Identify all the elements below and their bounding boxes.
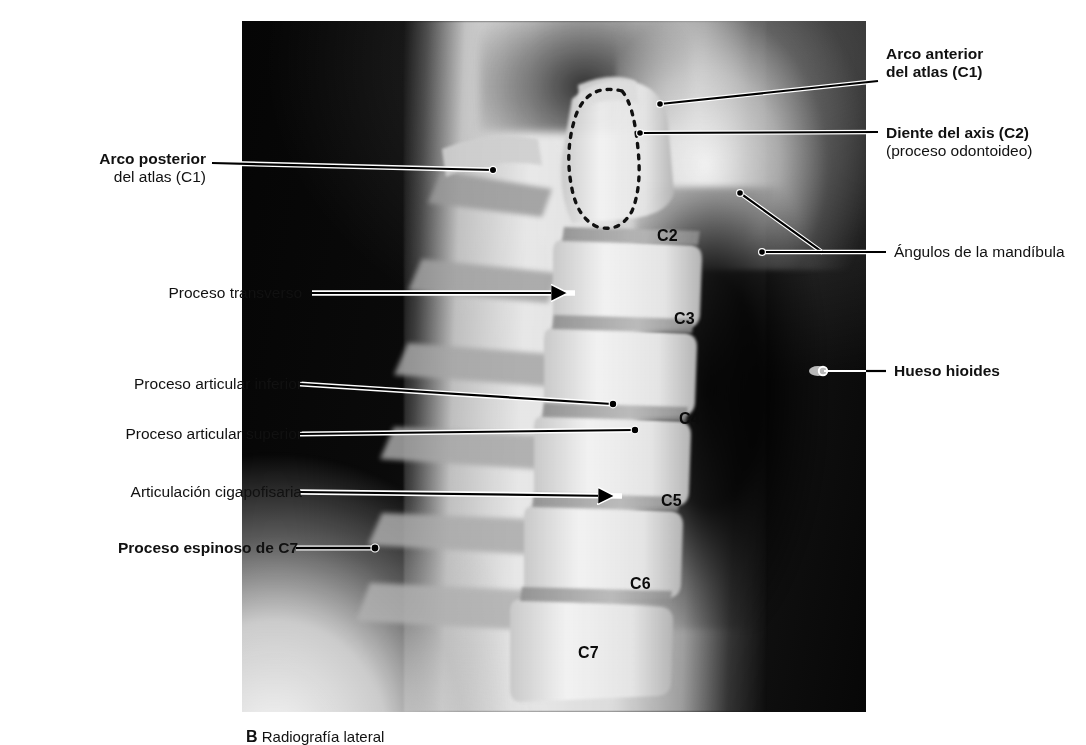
label-proceso-transverso-text: Proceso transverso	[168, 284, 302, 301]
cervical-spine-radiograph	[242, 21, 866, 712]
film-grain	[242, 21, 866, 712]
label-hueso-hioides: Hueso hioides	[894, 362, 1000, 380]
label-proceso-espinoso-c7: Proceso espinoso de C7	[20, 539, 298, 557]
label-proceso-articular-superior-text: Proceso articular superior	[125, 425, 302, 442]
figure-caption: B Radiografía lateral	[246, 727, 384, 745]
label-articulacion-cigapofisaria-text: Articulación cigapofisaria	[131, 483, 302, 500]
label-angulos-mandibula: Ángulos de la mandíbula	[894, 243, 1065, 261]
label-arco-anterior-atlas-line2: del atlas (C1)	[886, 63, 983, 81]
vertebra-label-c7: C7	[578, 644, 599, 662]
label-proceso-espinoso-c7-text: Proceso espinoso de C7	[118, 539, 298, 556]
label-arco-anterior-atlas: Arco anterior del atlas (C1)	[886, 45, 983, 81]
caption-text: Radiografía lateral	[262, 728, 385, 745]
vertebra-label-c5: C5	[661, 492, 682, 510]
label-arco-anterior-atlas-line1: Arco anterior	[886, 45, 983, 62]
label-articulacion-cigapofisaria: Articulación cigapofisaria	[14, 483, 302, 501]
label-arco-posterior-atlas: Arco posterior del atlas (C1)	[99, 150, 206, 186]
vertebra-label-c4: C4	[679, 410, 700, 428]
label-diente-del-axis: Diente del axis (C2) (proceso odontoideo…	[886, 124, 1033, 160]
caption-letter: B	[246, 728, 258, 745]
label-angulos-mandibula-text: Ángulos de la mandíbula	[894, 243, 1065, 260]
label-diente-del-axis-line2: (proceso odontoideo)	[886, 142, 1033, 160]
label-arco-posterior-atlas-line2: del atlas (C1)	[99, 168, 206, 186]
label-proceso-transverso: Proceso transverso	[30, 284, 302, 302]
vertebra-label-c3: C3	[674, 310, 695, 328]
label-proceso-articular-inferior: Proceso articular inferior	[18, 375, 302, 393]
label-diente-del-axis-line1: Diente del axis (C2)	[886, 124, 1029, 141]
label-proceso-articular-superior: Proceso articular superior	[8, 425, 302, 443]
vertebra-label-c6: C6	[630, 575, 651, 593]
label-arco-posterior-atlas-line1: Arco posterior	[99, 150, 206, 167]
label-proceso-articular-inferior-text: Proceso articular inferior	[134, 375, 302, 392]
anatomy-figure: Arco posterior del atlas (C1) Proceso tr…	[0, 0, 1086, 745]
vertebra-label-c2: C2	[657, 227, 678, 245]
label-hueso-hioides-text: Hueso hioides	[894, 362, 1000, 379]
